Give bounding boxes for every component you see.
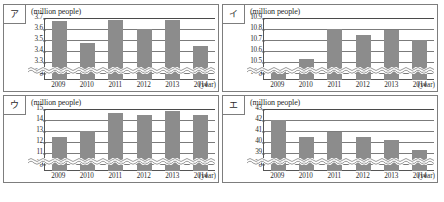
y-tick-label: 12 <box>36 138 43 145</box>
x-tick-label: 2012 <box>131 81 157 89</box>
x-tick-label: 2009 <box>45 81 71 89</box>
y-tick-label: 43 <box>255 105 262 112</box>
bar <box>384 30 399 80</box>
y-tick-zero: 0 <box>39 162 43 169</box>
bar-series-d <box>264 109 434 171</box>
y-tick-label: 10.7 <box>250 36 262 43</box>
chart-label-box-d: エ <box>223 96 245 115</box>
x-axis-unit-label-a: (year) <box>199 81 216 89</box>
four-bar-charts-figure: ア(million people)3.73.63.53.43.33.202009… <box>0 0 444 202</box>
x-tick-label: 2011 <box>321 172 347 180</box>
bar <box>80 131 95 171</box>
x-tick-label: 2009 <box>45 172 71 180</box>
y-tick-label: 41 <box>255 127 262 134</box>
y-tick-label: 10.5 <box>250 58 262 65</box>
x-axis-unit-label-c: (year) <box>199 172 216 180</box>
y-tick-label: 15 <box>36 105 43 112</box>
y-tick-label: 3.3 <box>35 58 43 65</box>
y-tick-label: 40 <box>255 138 262 145</box>
bar <box>193 115 208 172</box>
x-tick-label: 2011 <box>321 81 347 89</box>
bar <box>412 40 427 80</box>
x-tick-label: 2009 <box>264 172 290 180</box>
bar <box>356 137 371 172</box>
x-axis-labels-b: 200920102011201220132014 <box>263 81 434 89</box>
axes-a <box>44 18 215 80</box>
figure-caption <box>8 194 440 202</box>
y-tick-label: 10.9 <box>250 14 262 21</box>
y-axis-ticks-d: 4342414039380 <box>247 109 262 164</box>
x-tick-label: 2009 <box>264 81 290 89</box>
bar-series-a <box>45 18 215 80</box>
chart-panel-a: ア(million people)3.73.63.53.43.33.202009… <box>3 4 219 92</box>
x-tick-label: 2013 <box>159 172 185 180</box>
bar <box>327 132 342 171</box>
plot-area-c: 1514131211100200920102011201220132014(ye… <box>28 109 215 179</box>
x-tick-label: 2011 <box>102 172 128 180</box>
x-tick-label: 2012 <box>350 172 376 180</box>
bar-series-c <box>45 109 215 171</box>
x-tick-label: 2013 <box>378 172 404 180</box>
y-tick-label: 42 <box>255 116 262 123</box>
bar-series-b <box>264 18 434 80</box>
bar <box>108 20 123 80</box>
bar <box>271 120 286 171</box>
x-axis-labels-d: 200920102011201220132014 <box>263 172 434 180</box>
y-tick-label: 13 <box>36 127 43 134</box>
bar <box>384 140 399 171</box>
bar <box>137 115 152 172</box>
bar <box>412 150 427 171</box>
x-tick-label: 2012 <box>350 81 376 89</box>
x-axis-unit-label-d: (year) <box>418 172 435 180</box>
axes-d <box>263 109 434 171</box>
plot-area-b: 10.910.810.710.610.510.40200920102011201… <box>247 18 434 88</box>
y-tick-label: 10.6 <box>250 47 262 54</box>
y-tick-zero: 0 <box>39 71 43 78</box>
x-tick-label: 2013 <box>159 81 185 89</box>
x-tick-label: 2011 <box>102 81 128 89</box>
bar <box>52 21 67 80</box>
y-tick-label: 3.5 <box>35 36 43 43</box>
y-tick-label: 10.8 <box>250 25 262 32</box>
bar <box>52 137 67 172</box>
x-tick-label: 2010 <box>74 172 100 180</box>
plot-area-d: 4342414039380200920102011201220132014(ye… <box>247 109 434 179</box>
axes-b <box>263 18 434 80</box>
chart-panel-grid: ア(million people)3.73.63.53.43.33.202009… <box>3 4 441 183</box>
x-axis-labels-c: 200920102011201220132014 <box>44 172 215 180</box>
x-axis-unit-label-b: (year) <box>418 81 435 89</box>
bar <box>165 111 180 171</box>
bar <box>299 59 314 80</box>
y-tick-label: 3.4 <box>35 47 43 54</box>
chart-panel-b: イ(million people)10.910.810.710.610.510.… <box>222 4 438 92</box>
y-tick-label: 11 <box>36 149 43 156</box>
x-tick-label: 2010 <box>74 81 100 89</box>
bar <box>299 137 314 172</box>
plot-area-a: 3.73.63.53.43.33.20200920102011201220132… <box>28 18 215 88</box>
chart-panel-d: エ(million people)43424140393802009201020… <box>222 95 438 183</box>
bar <box>193 46 208 81</box>
chart-label-box-a: ア <box>4 5 26 24</box>
bar <box>80 43 95 80</box>
x-tick-label: 2010 <box>293 172 319 180</box>
bar <box>356 35 371 81</box>
y-axis-ticks-c: 1514131211100 <box>28 109 43 164</box>
y-tick-label: 14 <box>36 116 43 123</box>
x-tick-label: 2013 <box>378 81 404 89</box>
chart-panel-c: ウ(million people)15141312111002009201020… <box>3 95 219 183</box>
axes-c <box>44 109 215 171</box>
bar <box>108 113 123 171</box>
y-tick-label: 3.7 <box>35 14 43 21</box>
x-tick-label: 2012 <box>131 172 157 180</box>
chart-label-box-b: イ <box>223 5 245 24</box>
bar <box>327 29 342 80</box>
chart-label-box-c: ウ <box>4 96 26 115</box>
y-tick-zero: 0 <box>258 71 262 78</box>
y-tick-label: 39 <box>255 149 262 156</box>
bar <box>137 29 152 80</box>
bar <box>165 20 180 80</box>
x-tick-label: 2010 <box>293 81 319 89</box>
bar <box>271 71 286 80</box>
x-axis-labels-a: 200920102011201220132014 <box>44 81 215 89</box>
y-tick-zero: 0 <box>258 162 262 169</box>
